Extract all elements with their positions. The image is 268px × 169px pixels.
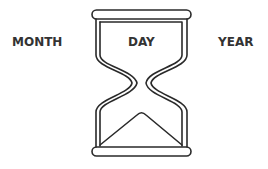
day-label: DAY <box>128 35 155 49</box>
hourglass-icon <box>0 0 268 169</box>
month-label: MONTH <box>12 35 62 49</box>
year-label: YEAR <box>218 35 253 49</box>
